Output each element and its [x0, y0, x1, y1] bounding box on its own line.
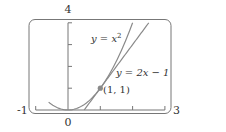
parabola-label-text: y = x [90, 33, 117, 44]
y-tick-label-max: 4 [65, 3, 72, 16]
tangent-label: y = 2x − 1 [115, 67, 170, 78]
x-tick-label-min: -1 [17, 104, 28, 117]
x-tick-label-zero: 0 [65, 116, 72, 129]
chart: -1 0 3 4 y = x2 y = 2x − 1 (1, 1) [0, 0, 226, 132]
point-label: (1, 1) [103, 84, 130, 95]
x-tick-label-max: 3 [173, 104, 180, 117]
parabola-label: y = x2 [90, 32, 122, 44]
parabola-label-exponent: 2 [117, 32, 121, 40]
